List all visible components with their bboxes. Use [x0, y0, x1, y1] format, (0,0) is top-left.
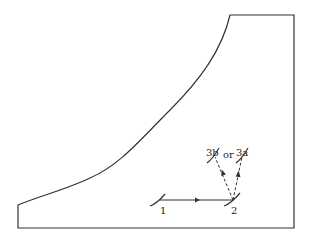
node-3a-label: 3a: [236, 147, 248, 158]
edge-2-to-3a: [233, 157, 242, 200]
node-1-label: 1: [160, 205, 166, 216]
edge-2-to-3b: [215, 157, 233, 200]
arrowhead-icon: [195, 198, 200, 203]
arrowhead-icon: [236, 171, 241, 178]
arrowhead-icon: [221, 170, 226, 177]
node-3b-label: 3b: [206, 147, 219, 158]
diagram-canvas: 1 2 3b or 3a: [0, 0, 310, 238]
boundary-outline: [18, 15, 294, 228]
or-label: or: [223, 149, 234, 160]
node-2-label: 2: [231, 205, 237, 216]
